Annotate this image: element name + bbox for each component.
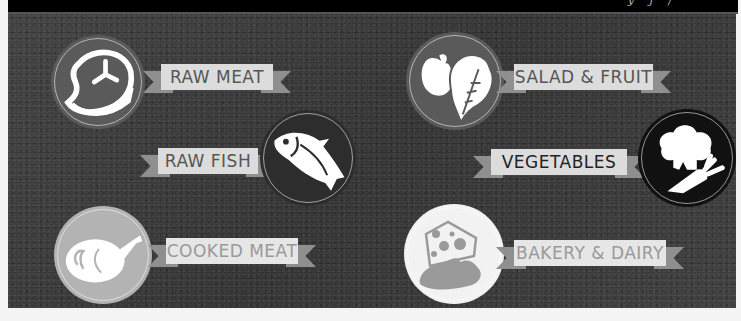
cooked-meat-badge [54, 206, 152, 304]
apple-leaf-icon [406, 32, 504, 130]
chalkboard-panel: RAW MEAT RAW FISH COOKED MEAT [8, 14, 736, 308]
broccoli-carrot-icon [638, 109, 736, 207]
bakery-dairy-ribbon: BAKERY & DAIRY [496, 240, 684, 270]
header-tagline: y j / [628, 0, 678, 7]
raw-fish-badge [260, 110, 356, 206]
raw-meat-label: RAW MEAT [170, 67, 264, 87]
salad-fruit-ribbon: SALAD & FRUIT [496, 64, 671, 94]
vegetables-badge [638, 109, 736, 207]
salad-fruit-label: SALAD & FRUIT [515, 67, 652, 87]
vegetables-label: VEGETABLES [502, 152, 617, 172]
raw-fish-ribbon: RAW FISH [140, 148, 276, 178]
raw-meat-ribbon: RAW MEAT [143, 64, 291, 94]
header-bar: y j / [8, 0, 738, 12]
cooked-meat-label: COOKED MEAT [167, 241, 298, 261]
raw-meat-badge [51, 35, 145, 129]
cheese-bread-icon [404, 204, 504, 304]
bakery-dairy-badge [404, 204, 504, 304]
steak-icon [51, 35, 145, 129]
cooked-meat-ribbon: COOKED MEAT [148, 238, 316, 268]
vegetables-ribbon: VEGETABLES [473, 149, 645, 179]
raw-fish-label: RAW FISH [165, 151, 251, 171]
roast-chicken-icon [54, 206, 152, 304]
bakery-dairy-label: BAKERY & DAIRY [516, 243, 664, 263]
fish-icon [260, 110, 356, 206]
salad-fruit-badge [406, 32, 504, 130]
